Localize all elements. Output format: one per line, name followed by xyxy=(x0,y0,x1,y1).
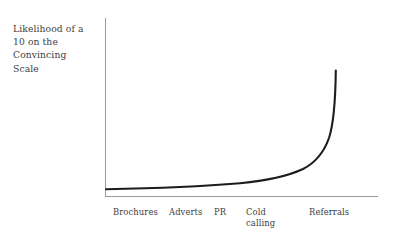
y-axis-title: Likelihood of a 10 on the Convincing Sca… xyxy=(13,22,97,75)
x-tick-label-referrals: Referrals xyxy=(309,207,349,218)
x-tick-label-adverts: Adverts xyxy=(169,207,202,218)
x-tick-label-brochures: Brochures xyxy=(113,207,158,218)
x-tick-label-pr: PR xyxy=(214,207,226,218)
data-series-line xyxy=(106,71,336,190)
x-tick-label-cold-calling: Cold calling xyxy=(246,207,275,230)
chart-container: Likelihood of a 10 on the Convincing Sca… xyxy=(0,0,400,234)
